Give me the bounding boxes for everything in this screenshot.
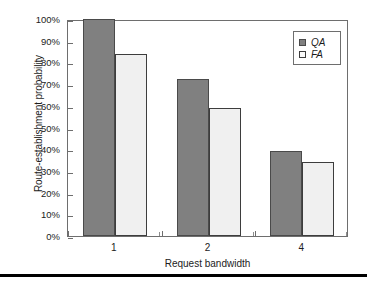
legend-label-qa: QA xyxy=(311,37,325,48)
x-axis-tick-label: 1 xyxy=(94,242,134,253)
y-axis-tick-mark xyxy=(68,64,73,65)
bar-qa-4 xyxy=(270,151,302,236)
x-axis-tick-label: 4 xyxy=(281,242,321,253)
y-axis-tick-mark xyxy=(68,151,73,152)
y-axis-tick-mark xyxy=(68,238,73,239)
y-axis-tick-mark xyxy=(68,216,73,217)
x-axis-minor-tick-mark xyxy=(159,232,160,236)
bar-qa-2 xyxy=(177,79,209,236)
y-axis-tick-mark xyxy=(68,108,73,109)
figure-container: Route-establishment probability 100%90%8… xyxy=(0,0,367,290)
y-axis-tick-mark xyxy=(68,195,73,196)
y-axis-tick-label: 20% xyxy=(20,188,60,199)
legend-label-fa: FA xyxy=(311,49,323,60)
bar-qa-1 xyxy=(83,19,115,236)
legend-swatch-qa-icon xyxy=(299,39,306,46)
y-axis-tick-label: 0% xyxy=(20,231,60,242)
x-axis-tick-mark xyxy=(347,231,348,236)
legend-swatch-fa-icon xyxy=(299,51,306,58)
y-axis-tick-mark xyxy=(68,43,73,44)
x-axis-tick-label: 2 xyxy=(188,242,228,253)
y-axis-tick-label: 40% xyxy=(20,144,60,155)
y-axis-tick-label: 70% xyxy=(20,79,60,90)
y-axis-tick-label: 60% xyxy=(20,101,60,112)
y-axis-tick-mark xyxy=(68,21,73,22)
y-axis-tick-label: 80% xyxy=(20,57,60,68)
y-axis-tick-label: 50% xyxy=(20,123,60,134)
chart-legend: QA FA xyxy=(293,31,341,65)
x-axis-tick-mark xyxy=(68,231,69,236)
y-axis-tick-label: 10% xyxy=(20,209,60,220)
y-axis-tick-label: 90% xyxy=(20,36,60,47)
bar-fa-2 xyxy=(209,108,241,236)
y-axis-tick-mark xyxy=(68,173,73,174)
figure-separator-rule xyxy=(0,274,367,277)
bar-fa-1 xyxy=(115,54,147,236)
legend-item-fa: FA xyxy=(299,48,335,60)
x-axis-tick-mark xyxy=(255,231,256,236)
y-axis-tick-mark xyxy=(68,86,73,87)
x-axis-minor-tick-mark xyxy=(253,232,254,236)
y-axis-tick-label: 100% xyxy=(20,14,60,25)
legend-item-qa: QA xyxy=(299,36,335,48)
bar-fa-4 xyxy=(302,162,334,236)
y-axis-tick-mark xyxy=(68,130,73,131)
y-axis-tick-label: 30% xyxy=(20,166,60,177)
x-axis-minor-tick-mark xyxy=(346,232,347,236)
x-axis-title: Request bandwidth xyxy=(67,258,348,269)
x-axis-tick-mark xyxy=(162,231,163,236)
